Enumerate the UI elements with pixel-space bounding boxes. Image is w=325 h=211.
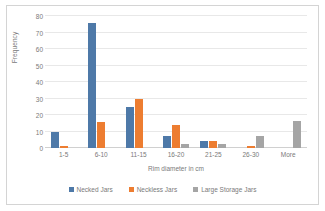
bar[interactable]	[163, 136, 171, 148]
bar[interactable]	[181, 144, 189, 148]
y-axis-tick-label: 80	[21, 13, 43, 20]
x-axis-tick-label: 6-10	[82, 151, 119, 158]
legend-item[interactable]: Large Storage Jars	[193, 186, 256, 193]
y-axis-tick-label: 40	[21, 79, 43, 86]
x-axis-tick-labels: 1-56-1011-1516-2021-2526-30More	[45, 151, 307, 158]
legend-item[interactable]: Neckless Jars	[129, 186, 177, 193]
y-axis-tick-label: 0	[21, 145, 43, 152]
bar[interactable]	[209, 141, 217, 148]
bar[interactable]	[51, 132, 59, 149]
bar[interactable]	[200, 141, 208, 148]
legend-label: Neckless Jars	[137, 186, 177, 193]
x-axis-title: Rim diameter in cm	[45, 165, 307, 172]
bar-group	[195, 16, 232, 148]
x-axis-tick-label: 1-5	[45, 151, 82, 158]
y-axis-tick-label: 60	[21, 46, 43, 53]
bar[interactable]	[218, 144, 226, 148]
legend-label: Large Storage Jars	[201, 186, 256, 193]
legend-swatch-icon	[193, 187, 198, 192]
y-axis-tick-label: 50	[21, 62, 43, 69]
y-axis-tick-label: 70	[21, 29, 43, 36]
bar[interactable]	[256, 136, 264, 148]
legend-item[interactable]: Necked Jars	[69, 186, 113, 193]
y-axis-title: Frequency	[11, 18, 18, 78]
bar[interactable]	[135, 99, 143, 149]
x-axis-tick-label: More	[270, 151, 307, 158]
chart-container: Frequency 01020304050607080 1-56-1011-15…	[6, 5, 319, 205]
bar-group	[232, 16, 269, 148]
x-axis-tick-label: 11-15	[120, 151, 157, 158]
bar-group	[120, 16, 157, 148]
y-axis-tick-labels: 01020304050607080	[21, 16, 43, 148]
bar-group	[270, 16, 307, 148]
bar[interactable]	[293, 121, 301, 148]
bar-group	[157, 16, 194, 148]
x-axis-tick-label: 16-20	[157, 151, 194, 158]
x-axis-tick-label: 26-30	[232, 151, 269, 158]
bar-groups	[45, 16, 307, 148]
legend-label: Necked Jars	[77, 186, 113, 193]
bar[interactable]	[247, 146, 255, 148]
bar-group	[45, 16, 82, 148]
bar[interactable]	[126, 107, 134, 148]
y-axis-tick-label: 20	[21, 112, 43, 119]
bar[interactable]	[97, 122, 105, 148]
y-axis-tick-label: 10	[21, 128, 43, 135]
bar[interactable]	[88, 23, 96, 148]
plot-area	[45, 16, 307, 148]
legend-swatch-icon	[69, 187, 74, 192]
bar[interactable]	[60, 146, 68, 148]
y-axis-tick-label: 30	[21, 95, 43, 102]
chart-legend: Necked JarsNeckless JarsLarge Storage Ja…	[7, 186, 318, 193]
bar-group	[82, 16, 119, 148]
x-axis-tick-label: 21-25	[195, 151, 232, 158]
bar[interactable]	[172, 125, 180, 148]
legend-swatch-icon	[129, 187, 134, 192]
